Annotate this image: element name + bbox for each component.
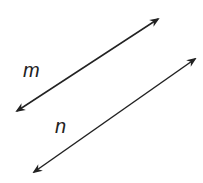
- lines-canvas: [0, 0, 203, 183]
- parallel-lines-diagram: m n: [0, 0, 203, 183]
- label-n: n: [55, 116, 66, 136]
- label-m: m: [23, 60, 40, 80]
